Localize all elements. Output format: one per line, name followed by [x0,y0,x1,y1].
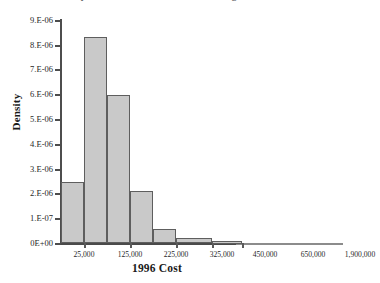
y-tick-mark [55,94,61,96]
x-tick-label: 1,900,000 [330,250,380,259]
chart-title: Comparison of Distribution of 1996 Nursi… [0,0,348,2]
y-tick-label: 1.E-07 [3,214,53,223]
x-tick-mark [176,243,178,248]
x-tick-mark [242,243,244,248]
y-tick-label: 8.E-06 [3,41,53,50]
x-axis-line [60,243,236,245]
histogram-bar [130,191,153,243]
histogram-bar [107,95,130,243]
y-tick-mark [55,45,61,47]
y-tick-label: 7.E-06 [3,65,53,74]
x-tick-mark [212,243,214,248]
histogram-bar [61,182,84,243]
y-tick-label: 2.E-06 [3,189,53,198]
histogram-bar [212,241,242,244]
y-tick-mark [55,119,61,121]
y-tick-mark [55,20,61,22]
y-tick-label: 3.E-06 [3,165,53,174]
y-tick-label: 9.E-06 [3,16,53,25]
y-tick-label: 0E+00 [3,239,53,248]
x-tick-mark [130,243,132,248]
y-tick-label: 5.E-06 [3,115,53,124]
y-tick-label: 4.E-06 [3,140,53,149]
y-tick-mark [55,69,61,71]
histogram-bar [84,37,107,243]
y-tick-mark [55,243,61,245]
y-tick-mark [55,169,61,171]
histogram-bar [153,229,176,243]
histogram-bar [176,238,212,243]
y-tick-label: 6.E-06 [3,90,53,99]
x-axis-title: 1996 Cost [61,262,253,274]
x-tick-mark [84,243,86,248]
y-tick-mark [55,144,61,146]
